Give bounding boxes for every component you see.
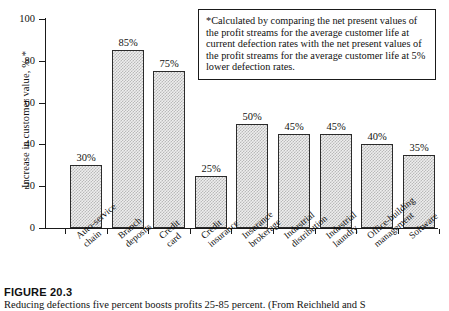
bar-value-label: 30% xyxy=(64,152,108,163)
bar-value-label: 25% xyxy=(189,163,233,174)
bar-value-label: 75% xyxy=(147,58,191,69)
bar-value-label: 50% xyxy=(230,111,274,122)
figure-number: FIGURE 20.3 xyxy=(4,286,445,298)
bar-value-label: 85% xyxy=(106,37,150,48)
figure-caption: FIGURE 20.3 Reducing defections five per… xyxy=(4,286,445,311)
footnote-text: *Calculated by comparing the net present… xyxy=(206,15,425,72)
bar xyxy=(153,71,185,228)
bar-value-label: 45% xyxy=(272,121,316,132)
figure-caption-text: Reducing defections five percent boosts … xyxy=(4,299,445,311)
bar xyxy=(112,50,144,228)
bar-value-label: 40% xyxy=(355,131,399,142)
footnote-callout: *Calculated by comparing the net present… xyxy=(198,9,436,80)
bar-value-label: 35% xyxy=(397,142,441,153)
bar-value-label: 45% xyxy=(314,121,358,132)
